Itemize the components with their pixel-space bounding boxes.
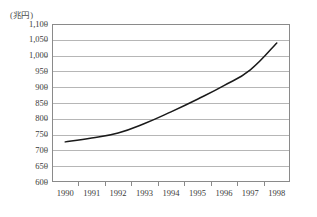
x-axis-tick-label: 1996 <box>215 189 232 198</box>
y-axis-tick-mark <box>44 135 48 136</box>
x-axis-tick-label: 1995 <box>189 189 206 198</box>
x-axis-tick-label: 1991 <box>83 189 100 198</box>
x-axis-tick-mark <box>264 182 265 186</box>
x-axis-tick-label: 1994 <box>163 189 180 198</box>
data-line-path <box>65 43 277 142</box>
x-axis-tick-mark <box>237 182 238 186</box>
y-axis-tick-mark <box>44 87 48 88</box>
x-axis-tick-label: 1997 <box>242 189 259 198</box>
y-axis-tick-mark <box>44 119 48 120</box>
y-axis-tick-mark <box>44 71 48 72</box>
y-axis-tick-mark <box>44 40 48 41</box>
x-axis-tick-mark <box>211 182 212 186</box>
x-axis-tick-mark <box>78 182 79 186</box>
x-axis-tick-mark <box>105 182 106 186</box>
line-chart: (兆円) 6006507007508008509009501,0001,0501… <box>0 0 317 217</box>
y-axis-tick-mark <box>44 182 48 183</box>
plot-area <box>52 24 290 182</box>
y-axis-tick-mark <box>44 56 48 57</box>
x-axis-tick-mark <box>184 182 185 186</box>
x-axis-tick-mark <box>131 182 132 186</box>
x-axis-tick-mark <box>158 182 159 186</box>
series-line <box>52 24 290 182</box>
y-axis-tick-mark <box>44 150 48 151</box>
x-axis-tick-labels: 199019911992199319941995199619971998 <box>52 189 290 205</box>
x-axis-tick-label: 1993 <box>136 189 153 198</box>
x-axis-tick-marks <box>52 182 290 187</box>
y-axis-tick-labels: 6006507007508008509009501,0001,0501,100 <box>0 24 48 182</box>
y-axis-tick-mark <box>44 166 48 167</box>
x-axis-tick-label: 1990 <box>57 189 74 198</box>
x-axis-tick-label: 1998 <box>268 189 285 198</box>
x-axis-tick-label: 1992 <box>110 189 127 198</box>
y-axis-tick-mark <box>44 103 48 104</box>
y-axis-tick-mark <box>44 24 48 25</box>
